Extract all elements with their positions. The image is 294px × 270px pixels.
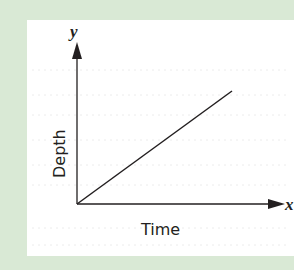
faint-grid (32, 70, 290, 245)
y-axis-label: Depth (50, 129, 69, 178)
line-chart: y x Time Depth (0, 0, 294, 270)
data-line (77, 91, 232, 204)
x-axis-symbol: x (284, 195, 294, 214)
x-axis-arrow-icon (268, 199, 285, 209)
y-axis-symbol: y (68, 22, 78, 41)
y-axis-arrow-icon (72, 42, 82, 59)
x-axis-label: Time (140, 220, 180, 239)
